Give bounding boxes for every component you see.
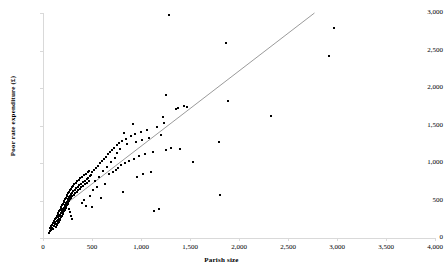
x-tick-mark [141,238,142,241]
data-point [94,180,96,182]
data-point [165,94,167,96]
data-point [68,208,70,210]
data-point [218,141,220,143]
data-point [104,183,106,185]
data-point [93,169,95,171]
data-point [138,155,140,157]
data-point [91,171,93,173]
x-tick-label: 2,500 [268,244,308,251]
data-point [120,164,122,166]
data-point [125,138,127,140]
data-point [102,170,104,172]
data-point [103,158,105,160]
data-point [123,132,125,134]
data-point [105,156,107,158]
data-point [219,194,221,196]
data-point [56,224,58,226]
data-point [152,151,154,153]
data-point [109,151,111,153]
data-point [179,148,181,150]
data-point [95,167,97,169]
data-point [107,153,109,155]
data-point [88,170,90,172]
data-point [150,171,152,173]
data-point [135,141,137,143]
data-point [141,139,143,141]
data-point [101,160,103,162]
data-point [148,137,150,139]
x-tick-label: 3,500 [366,244,406,251]
data-point [156,126,158,128]
x-tick-label: 2,000 [219,244,259,251]
x-tick-mark [288,238,289,241]
data-point [85,205,87,207]
data-point [112,171,114,173]
data-point [140,131,142,133]
data-point [158,208,160,210]
data-point [108,173,110,175]
data-point [121,140,123,142]
data-point [160,134,162,136]
data-point [136,176,138,178]
data-point [128,160,130,162]
data-point [118,142,120,144]
x-tick-mark [190,238,191,241]
data-point [52,228,54,230]
data-point [227,100,229,102]
data-point [96,186,98,188]
data-point [162,116,164,118]
data-point [163,122,165,124]
data-point [114,157,116,159]
data-point [328,55,330,57]
x-tick-label: 1,500 [170,244,210,251]
data-point [270,115,272,117]
x-tick-mark [43,238,44,241]
data-point [126,143,128,145]
data-point [97,165,99,167]
data-point [48,232,50,234]
data-point [83,199,85,201]
data-point [88,180,90,182]
x-tick-mark [239,238,240,241]
data-point [116,144,118,146]
data-point [113,147,115,149]
trendline [43,13,435,238]
x-tick-label: 4,000 [415,244,448,251]
data-point [91,206,93,208]
x-tick-label: 3,000 [317,244,357,251]
x-tick-label: 0 [23,244,63,251]
data-point [98,176,100,178]
data-point [115,169,117,171]
data-point [168,14,170,16]
data-point [110,161,112,163]
data-point [100,197,102,199]
x-tick-mark [337,238,338,241]
x-tick-label: 1,000 [121,244,161,251]
data-point [106,166,108,168]
data-point [186,106,188,108]
data-point [170,147,172,149]
plot-area [43,13,435,238]
data-point [134,133,136,135]
data-point [146,129,148,131]
data-point [89,195,91,197]
data-point [142,173,144,175]
data-point [81,202,83,204]
data-point [99,162,101,164]
data-point [130,135,132,137]
data-point [132,123,134,125]
data-point [122,191,124,193]
data-point [133,158,135,160]
data-point [69,211,71,213]
data-point [116,152,118,154]
data-point [183,105,185,107]
x-tick-label: 500 [72,244,112,251]
x-tick-mark [92,238,93,241]
data-point [225,42,227,44]
x-tick-mark [386,238,387,241]
data-point [177,107,179,109]
data-point [119,148,121,150]
data-point [90,174,92,176]
data-point [70,215,72,217]
